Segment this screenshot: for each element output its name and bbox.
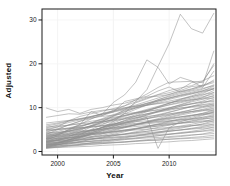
y-axis-title: Adjusted [4, 56, 13, 106]
y-tick-label: 0 [33, 148, 37, 155]
x-tick-label: 2005 [106, 160, 121, 167]
x-tick-label: 2000 [50, 160, 65, 167]
chart-figure: 2000200520100102030 Year Adjusted [0, 0, 230, 186]
spaghetti-line-chart: 2000200520100102030 [0, 0, 230, 186]
y-tick-label: 10 [29, 104, 37, 111]
y-tick-label: 30 [29, 16, 37, 23]
data-lines-layer [46, 13, 213, 148]
x-tick-label: 2010 [162, 160, 177, 167]
x-axis-title: Year [0, 171, 230, 180]
y-tick-label: 20 [29, 60, 37, 67]
